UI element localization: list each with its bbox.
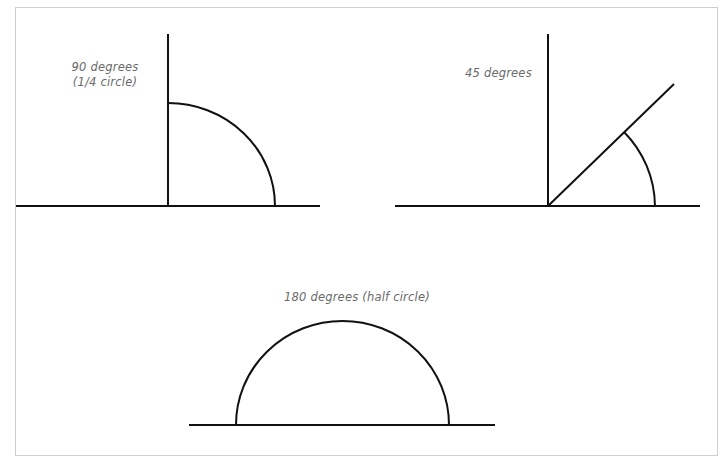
quarter-arc-90 [168,103,275,206]
label-180-degrees: 180 degrees (half circle) [284,290,430,305]
label-45-degrees: 45 degrees [465,66,532,81]
angle-180-figure [189,321,495,425]
angle-45-figure [395,34,700,206]
semicircle-arc-180 [236,321,449,425]
label-90-degrees: 90 degrees (1/4 circle) [50,60,160,90]
diagonal-ray-45 [548,84,674,206]
arc-45 [624,132,655,206]
label-90-line1: 90 degrees [50,60,160,75]
label-90-line2: (1/4 circle) [50,75,160,90]
